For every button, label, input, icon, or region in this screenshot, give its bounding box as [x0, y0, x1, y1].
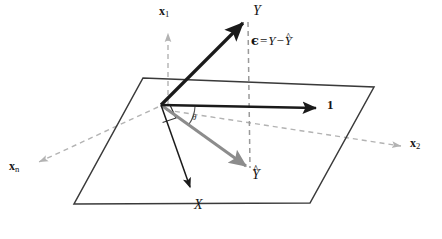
regression-geometry-diagram: x1 x2 xn Y ^Y X 1 θ ϵ=Y−^Y	[0, 0, 442, 239]
vector-one	[161, 105, 316, 108]
yhat-glyph: ^Y	[252, 168, 260, 182]
axis-label-x2: x2	[410, 137, 420, 151]
vector-label-one: 1	[327, 98, 334, 111]
vector-label-yhat: ^Y	[252, 168, 260, 182]
diagram-canvas	[0, 0, 442, 239]
axis-label-x1-subscript: 1	[165, 9, 169, 19]
vector-label-y: Y	[253, 4, 261, 18]
epsilon-symbol: ϵ	[251, 33, 259, 48]
minus-symbol: −	[276, 33, 285, 48]
equation-yhat: ^Y	[285, 34, 292, 47]
vector-yhat	[161, 105, 246, 166]
angle-label-theta: θ	[192, 113, 196, 122]
axis-xn	[39, 107, 158, 162]
axis-label-x2-subscript: 2	[416, 141, 420, 151]
hat-accent-eq: ^	[286, 31, 291, 42]
vector-y	[161, 23, 243, 105]
residual-dashed-line	[248, 22, 250, 168]
hat-accent: ^	[253, 164, 259, 176]
equation-y: Y	[268, 33, 275, 48]
equals-symbol: =	[259, 33, 268, 48]
axis-x2	[166, 110, 401, 146]
axis-label-xn: xn	[9, 160, 19, 174]
vector-label-x: X	[194, 198, 203, 212]
axis-group	[39, 33, 401, 162]
axis-label-x1: x1	[159, 5, 169, 19]
axis-label-xn-subscript: n	[15, 164, 19, 174]
residual-equation: ϵ=Y−^Y	[251, 34, 292, 47]
